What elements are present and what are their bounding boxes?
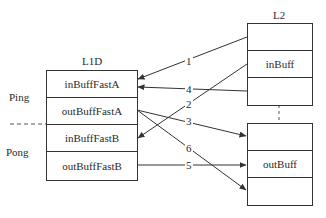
cell-inbufffasta: inBuffFastA: [47, 71, 137, 98]
outbuff-row-0: [248, 124, 312, 151]
arrow-label-4: 4: [185, 84, 193, 95]
arrow-4: [138, 87, 247, 91]
arrow-label-1: 1: [185, 56, 193, 67]
l2-inbuff-box: inBuff: [247, 23, 313, 106]
arrow-label-3: 3: [185, 116, 193, 127]
l2-outbuff-box: outBuff: [247, 123, 313, 206]
inbuff-row-0: [248, 24, 312, 51]
cell-inbufffastb: inBuffFastB: [47, 125, 137, 152]
ping-label: Ping: [9, 91, 29, 103]
cell-outbufffasta: outBuffFastA: [47, 98, 137, 125]
cell-outbufffastb: outBuffFastB: [47, 152, 137, 179]
arrow-label-2: 2: [185, 99, 193, 110]
l1d-buffer-box: inBuffFastA outBuffFastA inBuffFastB out…: [46, 70, 138, 181]
arrow-label-5: 5: [185, 160, 193, 171]
ping-pong-buffer-diagram: L1D Ping Pong inBuffFastA outBuffFastA i…: [0, 0, 326, 218]
arrow-1: [138, 37, 247, 79]
pong-label: Pong: [6, 146, 29, 158]
l2-title: L2: [273, 9, 285, 21]
l1d-title: L1D: [82, 55, 102, 67]
outbuff-row-1: outBuff: [248, 151, 312, 178]
outbuff-row-2: [248, 178, 312, 205]
inbuff-row-1: inBuff: [248, 51, 312, 78]
arrow-label-6: 6: [185, 143, 193, 154]
arrow-2: [138, 64, 247, 138]
inbuff-row-2: [248, 78, 312, 105]
